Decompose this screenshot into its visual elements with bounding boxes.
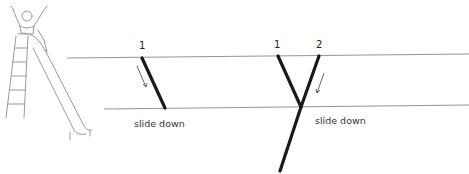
branch-1-right [278,56,301,107]
bottom-guide-line [104,105,469,109]
branch-label-right-1: 1 [274,40,280,50]
branch-label-right-2: 2 [316,40,322,50]
caption-left: slide down [134,119,185,129]
arrow-right [316,73,324,93]
top-guide-line [67,54,469,58]
trunk-right [280,107,301,171]
child-on-slide-illustration [6,6,92,140]
guide-lines [67,54,469,109]
diagram-canvas [0,0,469,174]
branch-label-left-1: 1 [139,41,145,51]
branch-2-right [301,56,319,107]
caption-right: slide down [315,116,366,126]
branch-1-left [142,58,165,108]
